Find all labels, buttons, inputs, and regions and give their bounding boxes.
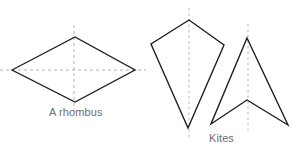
kite-dart-shape [211,38,288,125]
shapes-canvas [0,0,296,150]
geometry-figure: A rhombus Kites [0,0,296,150]
rhombus-caption: A rhombus [49,106,102,118]
kite-convex-shape [151,20,224,128]
kites-caption: Kites [209,132,234,144]
